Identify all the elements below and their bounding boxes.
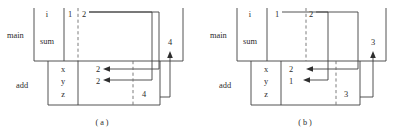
figure-root: main i sum 1 2 4 add x y z 2 xyxy=(0,0,407,132)
frame-label-main-b: main xyxy=(210,31,228,40)
value-x-a: 2 xyxy=(96,65,100,74)
frame-label-add-b: add xyxy=(219,81,232,90)
return-path-a xyxy=(160,58,170,97)
var-label-z-b: z xyxy=(264,90,268,99)
value-x-b: 2 xyxy=(289,65,293,74)
var-label-y-b: y xyxy=(264,77,269,86)
diagram-panel-a: main i sum 1 2 4 add x y z 2 xyxy=(0,0,204,132)
arrowhead-y-b xyxy=(303,77,310,83)
arrowhead-return-b xyxy=(370,51,376,58)
var-label-i-a: i xyxy=(46,10,49,19)
arg-path-x-a xyxy=(89,12,159,69)
arrowhead-x-a xyxy=(103,66,110,72)
value-y-a: 2 xyxy=(96,77,100,86)
arrowhead-x-b xyxy=(306,66,313,72)
panel-caption-a: ( a ) xyxy=(95,118,108,127)
arg-path-x-b xyxy=(316,12,358,69)
var-label-i-b: i xyxy=(249,10,252,19)
return-value-main-b: 3 xyxy=(371,38,375,47)
return-path-b xyxy=(360,58,373,97)
value-z-a: 4 xyxy=(142,90,147,99)
var-label-sum-a: sum xyxy=(40,37,54,46)
value-y-b: 1 xyxy=(289,77,293,86)
return-value-main-a: 4 xyxy=(168,38,173,47)
var-label-z-a: z xyxy=(61,90,65,99)
value-i-old-b: 1 xyxy=(275,10,279,19)
value-z-b: 3 xyxy=(344,90,348,99)
value-i-new-b: 2 xyxy=(309,10,313,19)
arrowhead-y-a xyxy=(103,77,110,83)
value-i-old-a: 1 xyxy=(68,10,72,19)
diagram-panel-b: main i sum 1 2 3 add x y z xyxy=(203,0,407,132)
arrowhead-return-a xyxy=(167,51,173,58)
var-label-y-a: y xyxy=(61,77,66,86)
var-label-x-a: x xyxy=(61,65,66,74)
frame-label-main-a: main xyxy=(7,31,25,40)
var-label-sum-b: sum xyxy=(243,37,257,46)
var-label-x-b: x xyxy=(264,65,269,74)
value-i-new-a: 2 xyxy=(82,10,86,19)
main-frame-box-a xyxy=(34,8,183,61)
frame-label-add-a: add xyxy=(16,81,29,90)
panel-caption-b: ( b ) xyxy=(298,118,312,127)
